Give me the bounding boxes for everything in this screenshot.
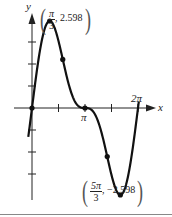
data-point — [29, 105, 34, 110]
y-axis-label: y — [26, 1, 31, 12]
x-axis-arrow-icon — [146, 105, 156, 112]
max-point-annotation: (π3, 2.598) — [38, 4, 93, 34]
x-axis-label: x — [158, 102, 163, 113]
x-tick-label-2pi: 2π — [131, 93, 142, 104]
data-point — [82, 105, 87, 110]
y-axis-arrow-icon — [29, 13, 36, 24]
min-point-annotation: (5π3, −2.598) — [80, 176, 145, 206]
data-point — [105, 154, 110, 159]
bottom-divider — [0, 214, 172, 215]
x-tick-label-pi: π — [81, 112, 87, 123]
data-point — [60, 57, 65, 62]
